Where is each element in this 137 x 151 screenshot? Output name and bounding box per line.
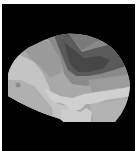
topographic-map [0, 0, 137, 151]
brain-regions [0, 0, 137, 151]
